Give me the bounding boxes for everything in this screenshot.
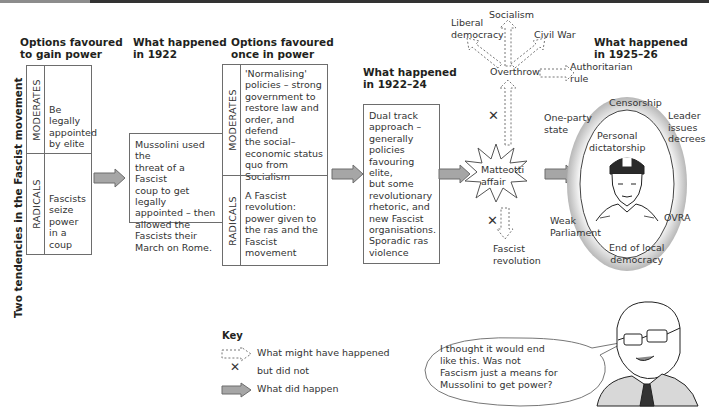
cross-icon: ✕ [487, 215, 498, 227]
one-party-state-label: One-party state [544, 112, 592, 135]
socialism-label: Socialism [489, 9, 534, 21]
moderates-option: 'Normalising' policies – strong governme… [245, 68, 324, 182]
civil-war-label: Civil War [534, 29, 576, 41]
top-rule-accent [0, 0, 90, 3]
top-rule [0, 0, 709, 3]
end-of-local-democracy-label: End of local democracy [609, 242, 664, 265]
key-dashed-label: What might have happened [257, 347, 390, 359]
censorship-label: Censorship [609, 97, 662, 109]
solid-arrow-icon [93, 168, 127, 188]
box-what-happened-1922-24: Dual track approach – generally policies… [363, 104, 440, 264]
authoritarian-rule-label: Authoritarian rule [570, 61, 633, 84]
solid-arrow-icon [331, 164, 365, 184]
header-what-happened-1925-26: What happened in 1925–26 [594, 36, 688, 60]
header-options-to-gain-power: Options favoured to gain power [20, 36, 123, 60]
overthrow-label: Overthrow [490, 66, 540, 78]
speech-bubble-text: I thought it would end like this. Was no… [440, 343, 558, 391]
table-options-to-gain-power: MODERATES Be legally appointed by elite … [26, 65, 92, 255]
cross-icon: ✕ [230, 362, 240, 374]
label-moderates: MODERATES [27, 66, 45, 153]
key-title: Key [222, 330, 243, 341]
box-what-happened-1922: Mussolini used the threat of a Fascist c… [129, 133, 224, 223]
label-radicals: RADICALS [27, 154, 45, 254]
weak-parliament-label: Weak Parliament [550, 215, 601, 238]
solid-arrow-icon [221, 382, 253, 398]
dashed-arrow-down-icon [495, 207, 515, 241]
side-title: Two tendencies in the Fascist movement [12, 78, 24, 318]
matteotti-affair-label: Matteotti affair [481, 164, 524, 187]
header-options-once-in-power: Options favoured once in power [231, 36, 334, 60]
row-radicals: RADICALS Fascists seize power in a coup [27, 154, 91, 254]
radicals-option: A Fascist revolution: power given to the… [245, 190, 324, 258]
key-solid-label: What did happen [257, 383, 338, 395]
moderates-option: Be legally appointed by elite [49, 104, 88, 150]
label-moderates: MODERATES [223, 65, 241, 175]
row-moderates: MODERATES 'Normalising' policies – stron… [223, 65, 327, 175]
table-options-once-in-power: MODERATES 'Normalising' policies – stron… [222, 64, 328, 266]
label-radicals: RADICALS [223, 176, 241, 265]
historian-caricature [592, 298, 702, 408]
row-moderates: MODERATES Be legally appointed by elite [27, 66, 91, 153]
row-radicals: RADICALS A Fascist revolution: power giv… [223, 176, 327, 265]
ovra-label: OVRA [664, 212, 691, 224]
leader-issues-decrees-label: Leader issues decrees [668, 110, 705, 145]
key-cross-label: but did not [257, 365, 309, 377]
personal-dictatorship-label: Personal dictatorship [589, 130, 646, 153]
radicals-option: Fascists seize power in a coup [49, 193, 88, 250]
fascist-revolution-label: Fascist revolution [493, 243, 541, 266]
header-what-happened-1922: What happened in 1922 [133, 36, 227, 60]
cross-icon: ✕ [488, 110, 499, 122]
